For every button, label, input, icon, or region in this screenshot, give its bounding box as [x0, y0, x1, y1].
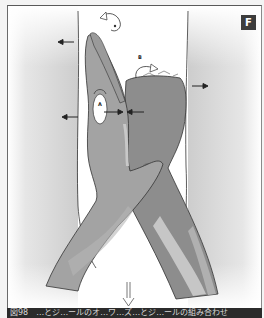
crossed-arms-illustration: A B — [8, 6, 261, 309]
figure-frame: A B — [7, 5, 262, 309]
figure-caption: 図98 …とジ…ールのオ…ワ…ズ…とジ…ールの組み合わせ — [7, 308, 262, 318]
figure-badge: F — [241, 15, 256, 30]
label-b: B — [138, 54, 142, 60]
label-a: A — [98, 101, 102, 107]
